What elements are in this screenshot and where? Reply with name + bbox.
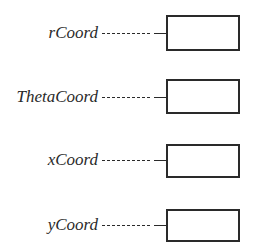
dashed-line xyxy=(102,160,150,161)
variable-label-xcoord: xCoord xyxy=(48,151,98,168)
variable-label-ycoord: yCoord xyxy=(48,216,98,233)
variable-box-xcoord xyxy=(166,144,240,178)
variable-label-rcoord: rCoord xyxy=(49,24,98,41)
variable-label-thetacoord: ThetaCoord xyxy=(16,88,98,105)
dashed-line xyxy=(102,97,150,98)
dashed-line xyxy=(102,225,150,226)
variable-box-rcoord xyxy=(166,15,240,51)
dashed-line xyxy=(102,33,150,34)
variable-box-ycoord xyxy=(166,209,240,242)
variable-diagram: rCoord ThetaCoord xCoord yCoord xyxy=(0,0,256,250)
variable-box-thetacoord xyxy=(166,79,240,114)
